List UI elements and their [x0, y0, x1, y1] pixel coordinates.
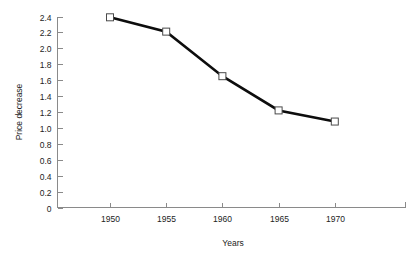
y-axis — [58, 17, 63, 209]
x-tick-label: 1955 — [157, 214, 176, 224]
x-tick-label: 1965 — [270, 214, 289, 224]
y-axis-title: Price decrease — [14, 83, 24, 140]
chart-container: 00.20.40.60.81.01.21.41.61.82.02.22.4 19… — [0, 0, 417, 263]
series-line-price-decrease — [110, 17, 335, 121]
y-tick-label: 2.2 — [40, 28, 52, 38]
y-tick-label: 0.4 — [40, 172, 52, 182]
y-tick-label: 0 — [47, 204, 52, 214]
data-point-marker — [275, 107, 282, 114]
x-tick-label: 1970 — [326, 214, 345, 224]
y-tick-label: 0.2 — [40, 188, 52, 198]
data-point-marker — [219, 73, 226, 80]
x-tick-labels: 19501955196019651970 — [101, 214, 345, 224]
y-tick-label: 1.8 — [40, 60, 52, 70]
x-tick-label: 1950 — [101, 214, 120, 224]
y-tick-label: 1.6 — [40, 76, 52, 86]
y-tick-label: 2.4 — [40, 13, 52, 23]
x-axis — [58, 202, 406, 208]
data-point-marker — [331, 118, 338, 125]
y-tick-label: 1.4 — [40, 92, 52, 102]
data-markers — [107, 14, 339, 125]
x-axis-ticks — [111, 203, 336, 208]
y-tick-labels: 00.20.40.60.81.01.21.41.61.82.02.22.4 — [40, 13, 52, 214]
data-point-marker — [107, 14, 114, 21]
data-point-marker — [163, 28, 170, 35]
y-tick-label: 0.8 — [40, 140, 52, 150]
y-tick-label: 1.0 — [40, 124, 52, 134]
y-tick-label: 0.6 — [40, 156, 52, 166]
y-tick-label: 2.0 — [40, 44, 52, 54]
y-axis-ticks — [58, 18, 63, 209]
x-axis-title: Years — [222, 238, 243, 248]
x-tick-label: 1960 — [213, 214, 232, 224]
line-chart: 00.20.40.60.81.01.21.41.61.82.02.22.4 19… — [0, 0, 417, 263]
y-tick-label: 1.2 — [40, 108, 52, 118]
